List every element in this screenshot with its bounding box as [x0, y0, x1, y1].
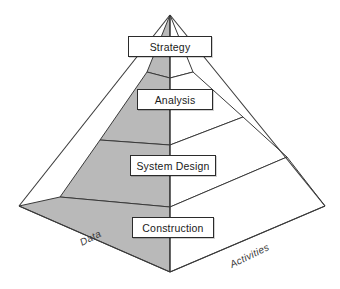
tier-box-system-design[interactable]: System Design: [130, 155, 216, 176]
pyramid-diagram: Strategy Analysis System Design Construc…: [0, 0, 340, 289]
tier-box-strategy[interactable]: Strategy: [128, 36, 212, 57]
tier-label-strategy: Strategy: [150, 41, 191, 53]
tier-box-construction[interactable]: Construction: [132, 217, 214, 238]
tier-label-analysis: Analysis: [155, 94, 196, 106]
tier-box-analysis[interactable]: Analysis: [137, 89, 213, 110]
tier-label-system-design: System Design: [136, 160, 209, 172]
tier-label-construction: Construction: [142, 222, 203, 234]
